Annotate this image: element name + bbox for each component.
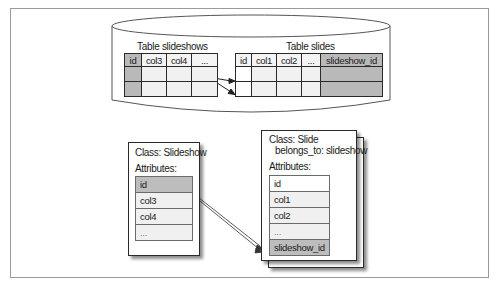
column-header: col2: [277, 54, 302, 67]
attribute-row: id: [270, 176, 330, 192]
column-header: id: [236, 54, 252, 67]
attribute-row: slideshow_id: [270, 240, 330, 256]
class-slide-box: Class: Slide belongs_to: slideshow Attri…: [261, 130, 357, 261]
class-slide-attributes: id col1 col2 ... slideshow_id: [269, 175, 330, 256]
table-row: [125, 82, 218, 97]
attribute-row: ...: [270, 224, 330, 240]
class-slide-subtitle: belongs_to: slideshow: [275, 145, 367, 156]
column-header: col4: [167, 54, 192, 67]
column-header: id: [125, 54, 142, 67]
table-slides-title: Table slides: [286, 41, 335, 52]
table-row: [236, 82, 383, 97]
attributes-label: Attributes:: [269, 161, 311, 172]
column-header: ...: [192, 54, 218, 67]
class-slideshow-attributes: id col3 col4 ...: [135, 176, 193, 241]
table-slideshows: id col3 col4 ...: [124, 53, 218, 97]
attribute-row: id: [136, 177, 193, 193]
table-row: [236, 67, 383, 82]
attribute-row: col4: [136, 209, 193, 225]
table-slides: id col1 col2 ... slideshow_id: [235, 53, 383, 97]
attribute-row: col2: [270, 208, 330, 224]
column-header: slideshow_id: [321, 54, 383, 67]
attribute-row: ...: [136, 225, 193, 241]
column-header: ...: [302, 54, 321, 67]
attribute-row: col3: [136, 193, 193, 209]
column-header: col3: [142, 54, 167, 67]
table-row: [125, 67, 218, 82]
table-slideshows-title: Table slideshows: [137, 41, 208, 52]
class-slideshow-box: Class: Slideshow Attributes: id col3 col…: [128, 142, 200, 256]
database-cylinder: [0, 0, 499, 288]
class-slideshow-title: Class: Slideshow: [135, 147, 206, 158]
column-header: col1: [252, 54, 277, 67]
class-slide-title: Class: Slide: [269, 134, 318, 145]
attributes-label: Attributes:: [135, 163, 177, 174]
attribute-row: col1: [270, 192, 330, 208]
